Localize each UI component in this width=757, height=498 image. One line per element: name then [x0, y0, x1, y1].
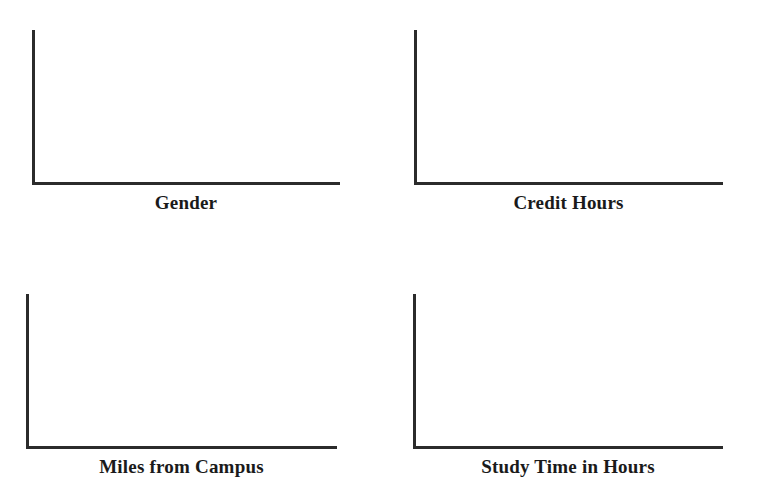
x-axis-label-gender: Gender [32, 192, 340, 214]
axes-frame-gender [32, 30, 340, 185]
x-axis-label-credit-hours: Credit Hours [414, 192, 723, 214]
plot-panel-credit: Credit Hours [378, 0, 757, 249]
axes-frame-miles [26, 294, 337, 449]
x-axis-label-study-time-in-hours: Study Time in Hours [413, 456, 723, 478]
panel-grid: Gender Credit Hours Miles from Campus St… [0, 0, 757, 498]
plot-panel-miles: Miles from Campus [0, 249, 378, 498]
x-axis-label-miles-from-campus: Miles from Campus [26, 456, 337, 478]
axes-frame-credit [414, 30, 723, 185]
plot-panel-gender: Gender [0, 0, 378, 249]
plot-panel-study: Study Time in Hours [378, 249, 757, 498]
axes-frame-study [413, 294, 723, 449]
